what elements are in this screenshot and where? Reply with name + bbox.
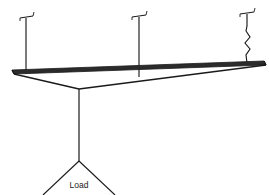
load-triangle: Load: [43, 161, 115, 195]
hanger-right-anchor-tick: [254, 8, 255, 12]
load-label: Load: [70, 180, 89, 190]
hanger-right: [240, 8, 255, 63]
hanger-left-anchor-tick: [33, 12, 34, 16]
beam-load-diagram-svg: Load: [0, 0, 269, 195]
hanger-middle-anchor-bar: [132, 15, 146, 17]
hanger-left: [20, 12, 34, 74]
hanger-right-spring-rod: [245, 14, 250, 63]
beam-near-edge-left: [14, 74, 79, 89]
hanger-middle-anchor-tick: [146, 11, 147, 15]
hanger-right-anchor-bar: [240, 12, 254, 14]
diagram-root: Load: [0, 0, 269, 195]
hanger-left-anchor-bar: [20, 16, 33, 18]
